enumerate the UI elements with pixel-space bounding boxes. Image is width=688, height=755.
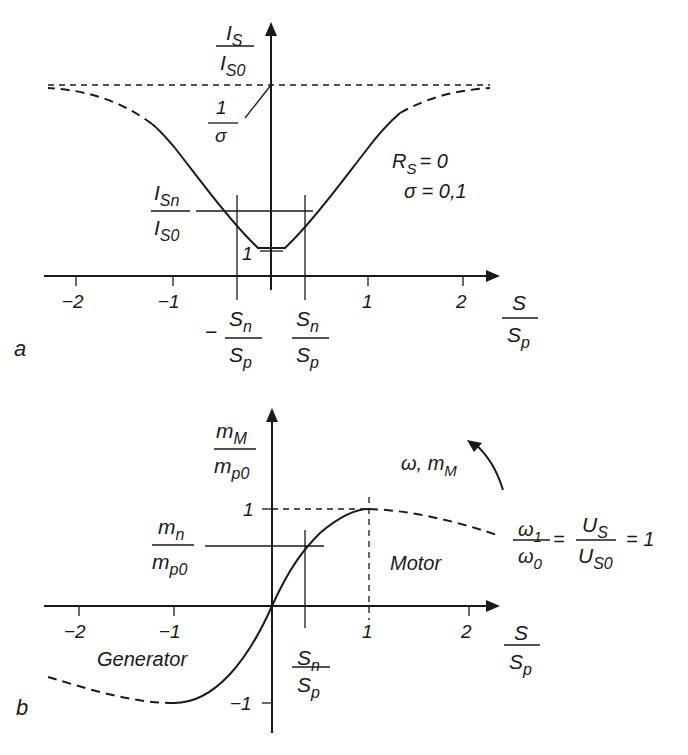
svg-text:mM: mM — [216, 419, 248, 447]
panel-b-tick-minus1: −1 — [159, 621, 181, 642]
panel-b-torque-curve-dashed-right — [369, 509, 500, 536]
svg-text:=: = — [553, 528, 565, 550]
panel-b-tick-2: 2 — [460, 621, 472, 642]
panel-a-sigma-label: σ = 0,1 — [404, 180, 467, 202]
panel-a-inv-sigma-label: 1 σ — [208, 97, 238, 146]
panel-a-current-curve — [175, 113, 400, 248]
panel-a-x-arrow-icon — [486, 270, 500, 282]
panel-b-torque-curve-dashed-left — [45, 676, 174, 703]
svg-text:US0: US0 — [578, 544, 613, 572]
svg-text:ISn: ISn — [154, 181, 180, 209]
svg-text:Sn: Sn — [297, 646, 320, 674]
panel-a-ticks — [76, 276, 463, 286]
svg-text:mp0: mp0 — [214, 454, 249, 482]
panel-b-tick-minus2: −2 — [64, 621, 86, 642]
svg-text:Sp: Sp — [229, 343, 252, 371]
panel-a-tick-minus2: −2 — [62, 291, 84, 312]
panel-b-generator-label: Generator — [97, 648, 188, 670]
figure-canvas: −2 −1 1 2 1 1 σ IS IS0 — [0, 0, 688, 755]
panel-b-ytick-minus1: −1 — [230, 693, 252, 714]
panel-a-rs-label: RS= 0 — [392, 150, 448, 177]
svg-text:−: − — [205, 320, 217, 343]
svg-text:IS0: IS0 — [154, 216, 180, 244]
panel-a-tick-minus1: −1 — [158, 291, 180, 312]
svg-text:Sp: Sp — [509, 650, 532, 678]
panel-a-x-label: S Sp — [502, 291, 538, 351]
svg-text:mp0: mp0 — [152, 550, 187, 578]
svg-text:σ: σ — [215, 125, 228, 146]
panel-b-tick-1: 1 — [362, 621, 373, 642]
svg-text:Sp: Sp — [296, 343, 319, 371]
figure: −2 −1 1 2 1 1 σ IS IS0 — [0, 0, 688, 755]
panel-a-sn-label: Sn Sp — [292, 307, 329, 371]
svg-text:S: S — [512, 291, 526, 314]
panel-a-current-curve-dashed-right — [400, 88, 490, 113]
panel-a-neg-sn-label: − Sn Sp — [205, 307, 262, 371]
svg-text:IS: IS — [226, 21, 243, 49]
svg-text:mn: mn — [158, 515, 185, 543]
panel-b-ytick-1: 1 — [243, 499, 254, 520]
panel-b-ratio-formula: ω1 ω0 = US US0 = 1 — [513, 513, 654, 572]
svg-text:ω1: ω1 — [518, 518, 542, 545]
panel-b-rotation-arrow — [474, 443, 503, 490]
svg-text:1: 1 — [216, 97, 227, 118]
panel-b-x-label: S Sp — [504, 621, 540, 678]
panel-a-y-label: IS IS0 — [216, 21, 254, 79]
svg-text:Sn: Sn — [229, 307, 252, 335]
panel-b-rotation-label: ω, mM — [401, 452, 457, 479]
panel-a-isn-label: ISn IS0 — [151, 181, 190, 244]
svg-text:Sn: Sn — [296, 307, 319, 335]
svg-text:S: S — [514, 621, 528, 644]
panel-a-current-curve-dashed-left — [48, 88, 152, 124]
panel-a-one-label: 1 — [242, 243, 253, 264]
panel-a-tick-2: 2 — [455, 291, 467, 312]
panel-a-current-curve-left — [152, 124, 175, 148]
panel-b-mn-label: mn mp0 — [152, 515, 194, 578]
panel-a-y-arrow-icon — [265, 22, 277, 36]
panel-b-letter: b — [16, 695, 28, 720]
panel-b-x-arrow-icon — [486, 600, 500, 612]
svg-text:ω0: ω0 — [518, 545, 543, 572]
svg-text:= 1: = 1 — [626, 528, 654, 550]
panel-a-letter: a — [14, 336, 26, 361]
panel-b: −2 −1 1 2 1 −1 mM mp0 mn mp0 Sn — [16, 408, 654, 733]
panel-a-tick-1: 1 — [362, 291, 373, 312]
panel-b-motor-label: Motor — [390, 552, 442, 574]
svg-text:IS0: IS0 — [220, 51, 246, 79]
panel-a: −2 −1 1 2 1 1 σ IS IS0 — [14, 21, 538, 371]
panel-b-y-label: mM mp0 — [214, 419, 256, 482]
svg-text:Sp: Sp — [507, 323, 530, 351]
panel-a-inv-sigma-pointer — [245, 85, 271, 118]
svg-text:Sp: Sp — [297, 673, 320, 701]
panel-b-sn-label: Sn Sp — [292, 646, 330, 701]
svg-text:US: US — [582, 513, 608, 541]
panel-b-rotation-arrow-head-icon — [467, 440, 482, 452]
panel-b-y-arrow-icon — [266, 408, 278, 422]
